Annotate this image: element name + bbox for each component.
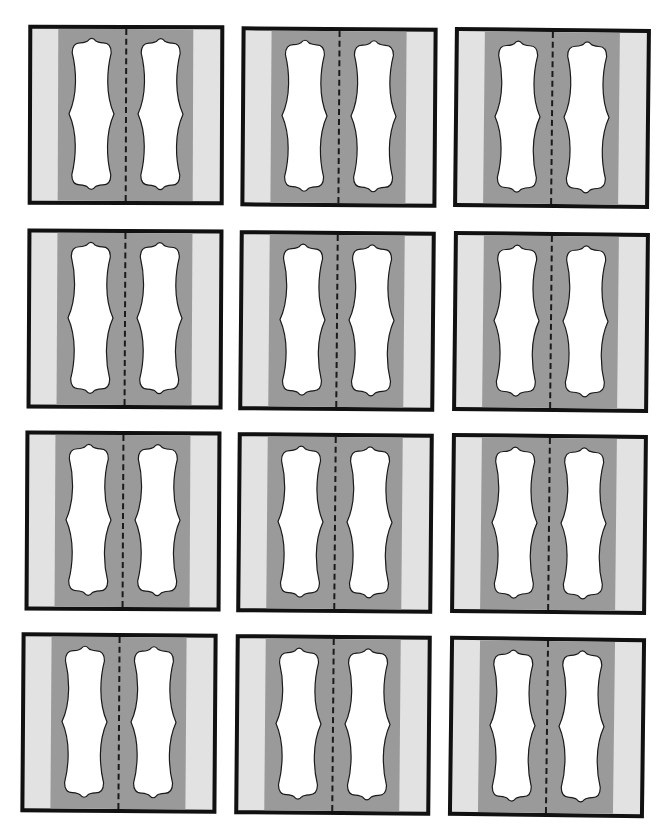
label-frame-left [490,447,539,597]
label-card [27,228,224,409]
label-frame-right [349,41,397,191]
label-frame-right [129,647,177,797]
label-card [448,636,646,818]
label-frame-left [278,244,326,394]
label-card [450,433,648,615]
label-frame-left [60,647,108,797]
label-frame-right [134,445,182,595]
label-card [236,432,434,614]
label-frame-right [557,651,606,802]
label-frame-left [492,245,541,395]
label-frame-left [276,446,324,596]
label-card [240,26,437,207]
label-frame-left [67,243,115,393]
label-card [452,231,650,413]
label-card [20,632,217,813]
label-card [25,430,222,611]
label-card [453,27,651,209]
label-frame-left [488,650,537,801]
label-frame-right [562,42,611,192]
label-frame-right [559,448,608,598]
label-frame-right [347,245,395,395]
label-frame-left [280,41,328,191]
label-frame-right [343,649,391,799]
label-frame-left [274,648,322,798]
label-frame-right [345,447,393,597]
label-frame-left [68,39,116,189]
label-frame-left [493,41,542,191]
label-frame-left [65,445,113,595]
label-card [234,634,432,816]
label-frame-right [137,39,185,189]
label-frame-right [561,246,610,396]
label-frame-right [136,243,184,393]
label-card [238,230,436,412]
label-card [28,25,225,206]
